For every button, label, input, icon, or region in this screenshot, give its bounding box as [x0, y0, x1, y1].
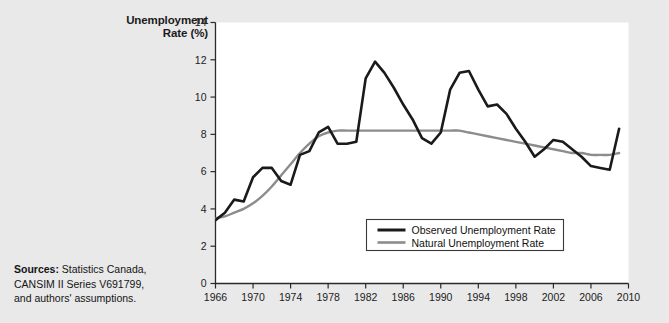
- y-tick-label: 2: [201, 240, 207, 252]
- x-tick-label: 2010: [617, 291, 641, 303]
- unemployment-chart-figure: Unemployment Rate (%) Sources: Statistic…: [0, 0, 669, 323]
- x-tick-label: 1990: [429, 291, 453, 303]
- x-tick-label: 2006: [579, 291, 603, 303]
- y-tick-label: 10: [195, 91, 207, 103]
- x-tick-label: 1994: [467, 291, 491, 303]
- y-tick-label: 0: [201, 277, 207, 289]
- legend-label-natural: Natural Unemployment Rate: [412, 237, 545, 249]
- x-tick-label: 1966: [204, 291, 228, 303]
- x-tick-label: 1970: [241, 291, 265, 303]
- x-tick-label: 1974: [279, 291, 303, 303]
- legend-label-observed: Observed Unemployment Rate: [412, 224, 556, 236]
- y-tick-label: 14: [195, 16, 207, 28]
- chart-plot-area: 0246810121419661970197419781982198619901…: [0, 0, 669, 323]
- x-tick-label: 1986: [392, 291, 416, 303]
- x-tick-label: 1998: [504, 291, 528, 303]
- y-tick-label: 8: [201, 128, 207, 140]
- x-tick-label: 1978: [316, 291, 340, 303]
- y-tick-label: 4: [201, 203, 207, 215]
- y-tick-label: 6: [201, 165, 207, 177]
- x-tick-label: 2002: [542, 291, 566, 303]
- y-tick-label: 12: [195, 54, 207, 66]
- x-tick-label: 1982: [354, 291, 378, 303]
